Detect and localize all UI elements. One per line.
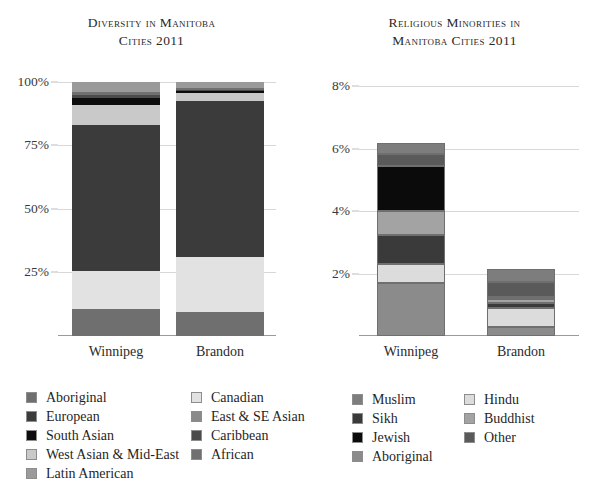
bar-segment: [72, 271, 160, 309]
legend-diversity: AboriginalEuropeanSouth AsianWest Asian …: [26, 388, 306, 483]
bar-segment: [487, 282, 555, 297]
bar-segment: [176, 93, 264, 101]
y-axis-tick-label: 8%: [332, 78, 350, 94]
legend-item-label: Other: [484, 431, 516, 445]
chart-panel-religion: Religious Minorities in Manitoba Cities …: [303, 0, 606, 385]
chart-title-line2: Cities 2011: [0, 32, 303, 50]
stacked-bar[interactable]: [176, 82, 264, 336]
legend-column: HinduBuddhistOther: [464, 390, 535, 466]
legend-swatch-icon: [352, 432, 363, 443]
bar-segment: [377, 166, 445, 211]
plot-area-religion: 2%4%6%8%WinnipegBrandon: [359, 74, 579, 336]
legend-item-label: Jewish: [372, 431, 410, 445]
legend-item[interactable]: Sikh: [352, 409, 464, 428]
stacked-bar[interactable]: [377, 143, 445, 336]
legend-item[interactable]: Aboriginal: [352, 447, 464, 466]
legend-item-label: Muslim: [372, 393, 416, 407]
legend-item[interactable]: East & SE Asian: [191, 407, 305, 426]
legend-swatch-icon: [26, 411, 37, 422]
y-axis-tick-mark: [352, 148, 359, 149]
y-axis-tick-label: 4%: [332, 203, 350, 219]
legend-item-label: South Asian: [46, 429, 114, 443]
legend-swatch-icon: [191, 411, 202, 422]
legend-item-label: African: [211, 448, 254, 462]
y-axis-tick-label: 2%: [332, 266, 350, 282]
y-axis-tick-mark: [51, 272, 58, 273]
legend-item[interactable]: European: [26, 407, 191, 426]
bar-segment: [72, 105, 160, 125]
bar-segment: [487, 308, 555, 327]
legend-item[interactable]: West Asian & Mid-East: [26, 445, 191, 464]
legend-item[interactable]: Aboriginal: [26, 388, 191, 407]
y-axis-tick-mark: [352, 211, 359, 212]
chart-title-line1: Religious Minorities in: [303, 14, 606, 32]
legend-item[interactable]: African: [191, 445, 305, 464]
y-axis-tick-mark: [352, 273, 359, 274]
legend-column: AboriginalEuropeanSouth AsianWest Asian …: [26, 388, 191, 483]
legend-column: MuslimSikhJewishAboriginal: [352, 390, 464, 466]
gridline: [359, 86, 579, 87]
bar-segment: [377, 264, 445, 283]
legend-item-label: Hindu: [484, 393, 519, 407]
legend-swatch-icon: [352, 451, 363, 462]
legend-swatch-icon: [26, 468, 37, 479]
legend-swatch-icon: [191, 392, 202, 403]
y-axis-tick-label: 50%: [24, 201, 49, 217]
bar-segment: [72, 309, 160, 336]
y-axis-tick-mark: [51, 81, 58, 82]
bar-segment: [72, 125, 160, 271]
legend-item-label: Caribbean: [211, 429, 269, 443]
x-axis-label: Brandon: [196, 344, 244, 360]
legend-item[interactable]: Muslim: [352, 390, 464, 409]
bar-segment: [176, 101, 264, 257]
legend-swatch-icon: [191, 449, 202, 460]
bar-segment: [176, 257, 264, 312]
x-axis-label: Winnipeg: [89, 344, 144, 360]
legend-swatch-icon: [352, 413, 363, 424]
legend-item[interactable]: Buddhist: [464, 409, 535, 428]
stacked-bar[interactable]: [72, 82, 160, 336]
y-axis-tick-label: 25%: [24, 264, 49, 280]
legend-item[interactable]: Hindu: [464, 390, 535, 409]
bar-segment: [377, 143, 445, 154]
y-axis-tick-mark: [51, 145, 58, 146]
legend-item-label: East & SE Asian: [211, 410, 305, 424]
chart-title-diversity: Diversity in Manitoba Cities 2011: [0, 14, 303, 50]
bar-segment: [176, 312, 264, 336]
legend-item[interactable]: Latin American: [26, 464, 191, 483]
legend-item-label: West Asian & Mid-East: [46, 448, 179, 462]
legend-swatch-icon: [191, 430, 202, 441]
legend-item[interactable]: Other: [464, 428, 535, 447]
legend-item-label: European: [46, 410, 100, 424]
legend-swatch-icon: [464, 413, 475, 424]
y-axis-tick-mark: [51, 208, 58, 209]
legend-swatch-icon: [464, 394, 475, 405]
legend-item-label: Buddhist: [484, 412, 535, 426]
bar-segment: [377, 235, 445, 265]
stacked-bar[interactable]: [487, 269, 555, 336]
legend-swatch-icon: [26, 430, 37, 441]
y-axis-tick-label: 75%: [24, 137, 49, 153]
y-axis-tick-mark: [352, 86, 359, 87]
bar-segment: [487, 269, 555, 281]
x-axis-label: Winnipeg: [384, 344, 439, 360]
y-axis-tick-label: 6%: [332, 141, 350, 157]
bar-segment: [377, 154, 445, 166]
bar-segment: [487, 327, 555, 336]
chart-title-religion: Religious Minorities in Manitoba Cities …: [303, 14, 606, 50]
bar-segment: [377, 283, 445, 336]
chart-panel-diversity: Diversity in Manitoba Cities 2011 25%50%…: [0, 0, 303, 385]
legend-item-label: Canadian: [211, 391, 264, 405]
bar-segment: [72, 82, 160, 92]
x-axis-label: Brandon: [497, 344, 545, 360]
legend-item[interactable]: South Asian: [26, 426, 191, 445]
chart-title-line1: Diversity in Manitoba: [0, 14, 303, 32]
legend-swatch-icon: [26, 392, 37, 403]
legend-item-label: Latin American: [46, 467, 133, 481]
legend-item[interactable]: Caribbean: [191, 426, 305, 445]
chart-title-line2: Manitoba Cities 2011: [303, 32, 606, 50]
bar-segment: [377, 211, 445, 234]
legend-item[interactable]: Canadian: [191, 388, 305, 407]
legend-swatch-icon: [26, 449, 37, 460]
legend-item[interactable]: Jewish: [352, 428, 464, 447]
